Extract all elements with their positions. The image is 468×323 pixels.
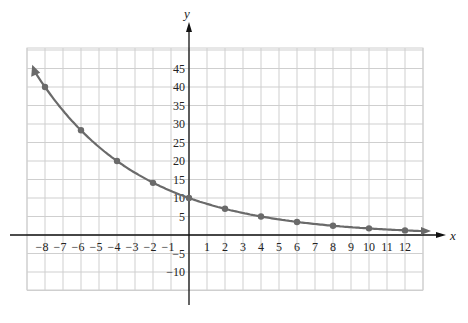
svg-text:40: 40 — [173, 80, 185, 94]
svg-text:5: 5 — [179, 210, 185, 224]
svg-text:−8: −8 — [36, 240, 49, 254]
svg-text:2: 2 — [222, 240, 228, 254]
svg-text:−5: −5 — [172, 247, 185, 261]
data-point — [114, 158, 120, 164]
tick-labels: −8−7−6−5−4−3−2−1123456789101112−10−55101… — [36, 62, 411, 280]
data-point — [150, 180, 156, 186]
svg-text:20: 20 — [173, 154, 185, 168]
svg-text:45: 45 — [173, 62, 185, 76]
grid — [27, 48, 423, 291]
exponential-decay-chart: xy −8−7−6−5−4−3−2−1123456789101112−10−55… — [0, 0, 468, 323]
data-point — [42, 84, 48, 90]
svg-text:12: 12 — [399, 240, 411, 254]
data-point — [78, 127, 84, 133]
svg-text:11: 11 — [381, 240, 393, 254]
axes: xy — [10, 6, 456, 305]
data-point — [186, 195, 192, 201]
svg-text:−2: −2 — [144, 240, 157, 254]
svg-text:3: 3 — [240, 240, 246, 254]
svg-text:1: 1 — [204, 240, 210, 254]
data-point — [330, 223, 336, 229]
svg-text:5: 5 — [276, 240, 282, 254]
data-curve — [31, 65, 431, 235]
svg-text:30: 30 — [173, 117, 185, 131]
svg-text:−7: −7 — [54, 240, 67, 254]
svg-text:6: 6 — [294, 240, 300, 254]
data-point — [258, 213, 264, 219]
x-axis-label: x — [449, 228, 456, 243]
svg-text:−4: −4 — [108, 240, 121, 254]
svg-text:15: 15 — [173, 173, 185, 187]
svg-text:−5: −5 — [90, 240, 103, 254]
data-point — [402, 227, 408, 233]
svg-text:−3: −3 — [126, 240, 139, 254]
data-point — [366, 225, 372, 231]
svg-text:9: 9 — [348, 240, 354, 254]
data-point — [222, 206, 228, 212]
svg-text:35: 35 — [173, 99, 185, 113]
svg-text:25: 25 — [173, 136, 185, 150]
svg-text:10: 10 — [363, 240, 375, 254]
data-point — [294, 219, 300, 225]
y-axis-label: y — [182, 6, 190, 21]
svg-text:−10: −10 — [166, 265, 185, 279]
svg-text:4: 4 — [258, 240, 264, 254]
svg-text:8: 8 — [330, 240, 336, 254]
svg-text:−6: −6 — [72, 240, 85, 254]
svg-text:7: 7 — [312, 240, 318, 254]
